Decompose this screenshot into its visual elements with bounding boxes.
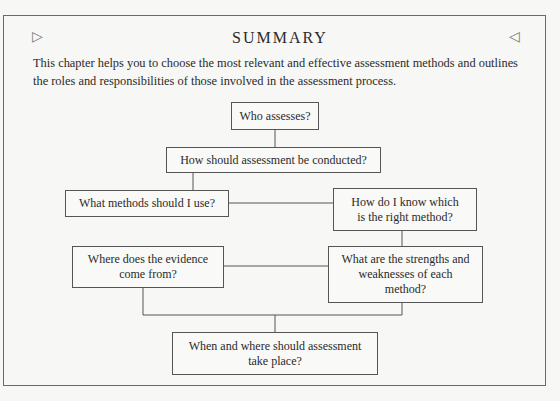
node-when-where: When and where should assessment take pl… <box>172 332 378 375</box>
node-strengths-weaknesses: What are the strengths and weaknesses of… <box>328 246 483 303</box>
node-how-conducted: How should assessment be conducted? <box>166 147 381 173</box>
node-evidence-source: Where does the evidence come from? <box>72 246 224 288</box>
node-who-assesses: Who assesses? <box>231 102 319 130</box>
node-what-methods: What methods should I use? <box>65 190 229 217</box>
node-right-method: How do I know which is the right method? <box>333 188 477 231</box>
